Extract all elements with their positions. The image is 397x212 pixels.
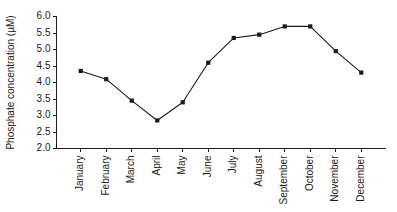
data-point — [283, 24, 287, 28]
data-point — [257, 33, 261, 37]
data-point — [308, 24, 312, 28]
line-chart: 2.02.53.03.54.04.55.05.56.0 JanuaryFebru… — [0, 0, 397, 212]
x-axis-tick-label: February — [100, 156, 111, 196]
x-axis-tick-label: March — [125, 156, 136, 184]
y-axis-tick-label: 5.0 — [37, 43, 51, 54]
y-axis-tick-label: 2.0 — [37, 142, 51, 153]
data-point — [79, 69, 83, 73]
data-series-line — [81, 26, 362, 120]
x-axis-tick-label: May — [176, 156, 187, 175]
data-series-markers — [79, 24, 364, 122]
plot-area: 2.02.53.03.54.04.55.05.56.0 JanuaryFebru… — [0, 0, 397, 212]
data-point — [232, 36, 236, 40]
y-axis-tick-label: 4.0 — [37, 76, 51, 87]
y-axis-tick-label: 5.5 — [37, 27, 51, 38]
x-axis-tick-label: June — [202, 155, 213, 177]
data-point — [181, 100, 185, 104]
y-axis-tick-labels: 2.02.53.03.54.04.55.05.56.0 — [37, 10, 51, 153]
data-point — [359, 71, 363, 75]
y-axis-tick-label: 3.0 — [37, 109, 51, 120]
x-axis-tick-label: September — [278, 155, 289, 205]
x-axis-tick-label: August — [253, 155, 264, 186]
y-axis-tick-label: 4.5 — [37, 60, 51, 71]
data-point — [334, 49, 338, 53]
data-point — [104, 77, 108, 81]
x-axis-tick-label: December — [355, 155, 366, 202]
data-point — [155, 118, 159, 122]
x-axis-tick-marks — [81, 149, 362, 153]
x-axis-tick-labels: JanuaryFebruaryMarchAprilMayJuneJulyAugu… — [74, 155, 366, 205]
x-axis-tick-label: October — [304, 155, 315, 191]
y-axis-tick-label: 2.5 — [37, 126, 51, 137]
data-point — [206, 61, 210, 65]
x-axis-tick-label: April — [151, 156, 162, 176]
y-axis-title: Phosphate concentration (µM) — [5, 15, 16, 149]
y-axis-tick-label: 6.0 — [37, 10, 51, 21]
x-axis-tick-label: November — [329, 155, 340, 202]
data-point — [130, 99, 134, 103]
x-axis-tick-label: January — [74, 156, 85, 192]
x-axis-tick-label: July — [227, 156, 238, 174]
y-axis-tick-marks — [53, 17, 57, 149]
y-axis-tick-label: 3.5 — [37, 93, 51, 104]
